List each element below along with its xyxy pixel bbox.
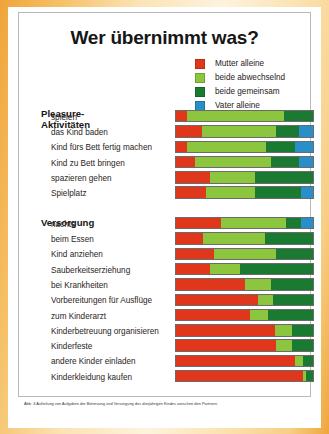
chart-row: Kinderkleidung kaufen [19,369,310,384]
bar-segment [176,264,210,274]
stacked-bar [175,141,314,153]
bar-segment [176,310,250,320]
bar-segment [276,126,299,136]
stacked-bar [175,309,314,321]
legend-item-label: Mutter alleine [215,59,264,68]
stacked-bar [175,125,314,137]
chart-row-label: beim Essen [51,235,94,244]
bar-segment [210,264,240,274]
bar-segment [195,157,270,167]
chart-row: Kind fürs Bett fertig machen [19,140,310,155]
bar-segment [176,187,206,197]
chart-row: Kinderbetreuung organisieren [19,323,310,338]
stacked-bar [175,156,314,168]
bar-segment [271,157,300,167]
chart-row-label: andere Kinder einladen [51,357,136,366]
bar-segment [306,371,313,381]
chart-row-label: Sauberkeitserziehung [51,265,130,274]
chart-row: Spielplatz [19,185,310,200]
stacked-bar [175,217,314,229]
chart-row-label: Kinderkleidung kaufen [51,372,132,381]
bar-segment [176,172,210,182]
chart-rows: spielendas Kind badenKind fürs Bett fert… [19,109,310,384]
bar-segment [301,187,313,197]
legend-swatch-icon [195,87,205,97]
chart-row: Vorbereitungen für Ausflüge [19,293,310,308]
bar-segment [245,279,271,289]
bar-segment [276,340,292,350]
bar-segment [299,157,313,167]
bar-segment [221,218,285,228]
bar-segment [187,111,284,121]
stacked-bar [175,248,314,260]
legend-item: beide abwechselnd [195,71,285,84]
legend-swatch-icon [195,59,205,69]
bar-segment [292,340,313,350]
bar-segment [202,126,276,136]
bar-segment [286,218,301,228]
stacked-bar [175,294,314,306]
figure-caption: Abb. 4 Aufteilung von Aufgaben der Betre… [24,401,319,406]
stacked-bar [175,355,314,367]
chart-plot-area: Pleasure- Aktivitäten Versorgung spielen… [19,109,310,384]
bar-segment [295,356,303,366]
bar-segment [266,142,295,152]
page-title: Wer übernimmt was? [19,27,310,49]
bar-segment [299,126,313,136]
bar-segment [258,295,273,305]
stacked-bar [175,186,314,198]
chart-row-label: Vorbereitungen für Ausflüge [51,296,152,305]
bar-segment [176,157,195,167]
bar-segment [214,249,276,259]
chart-row-label: bei Krankheiten [51,280,108,289]
chart-row-label: Kinderfeste [51,342,92,351]
bar-segment [176,142,187,152]
stacked-bar [175,232,314,244]
stacked-bar [175,171,314,183]
chart-row-label: Spielplatz [51,189,87,198]
bar-segment [176,218,221,228]
bar-segment [271,279,313,289]
chart-row-label: spazieren gehen [51,173,112,182]
chart-row: Kind anziehen [19,247,310,262]
stacked-bar [175,324,314,336]
bar-segment [176,295,258,305]
legend-swatch-icon [195,73,205,83]
stacked-bar [175,339,314,351]
chart-row: zum Kinderarzt [19,308,310,323]
bar-segment [303,356,313,366]
bar-segment [176,126,202,136]
bar-segment [176,249,214,259]
chart-card: Wer übernimmt was? Mutter alleinebeide a… [18,12,311,397]
chart-row: Kind zu Bett bringen [19,155,310,170]
chart-row: Kinderfeste [19,338,310,353]
bar-segment [276,249,313,259]
chart-row: nachts [19,216,310,231]
chart-row: Sauberkeitserziehung [19,262,310,277]
legend-item-label: beide abwechselnd [215,73,285,82]
stacked-bar [175,278,314,290]
stacked-bar [175,263,314,275]
chart-row: spielen [19,109,310,124]
bar-segment [176,111,187,121]
legend-item-label: beide gemeinsam [215,87,280,96]
chart-row: andere Kinder einladen [19,354,310,369]
chart-row-label: nachts [51,219,75,228]
legend-item: beide gemeinsam [195,85,285,98]
bar-segment [176,279,245,289]
chart-row-label: Kind fürs Bett fertig machen [51,143,152,152]
chart-row-label: spielen [51,112,77,121]
chart-row-label: Kind zu Bett bringen [51,158,125,167]
chart-row-label: Kind anziehen [51,250,103,259]
chart-row: spazieren gehen [19,170,310,185]
bar-segment [255,172,313,182]
figure-inner-page: Wer übernimmt was? Mutter alleinebeide a… [8,7,321,428]
bar-segment [265,233,313,243]
bar-segment [284,111,313,121]
chart-row: das Kind baden [19,124,310,139]
legend-item: Mutter alleine [195,57,285,70]
chart-legend: Mutter alleinebeide abwechselndbeide gem… [195,57,285,113]
bar-segment [240,264,313,274]
bar-segment [210,172,255,182]
chart-row: bei Krankheiten [19,277,310,292]
